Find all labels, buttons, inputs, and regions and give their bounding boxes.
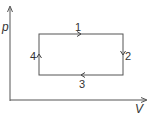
cycle-rectangle [39,34,123,75]
segment-label-4: 4 [30,50,36,62]
x-axis [10,98,147,103]
x-axis-label: V [135,102,144,115]
segment-label-3: 3 [79,78,85,90]
pv-diagram: p V 1 2 3 4 [0,0,151,115]
segment-label-2: 2 [125,50,131,62]
segment-label-1: 1 [75,21,81,33]
y-axis-label: p [1,20,9,34]
